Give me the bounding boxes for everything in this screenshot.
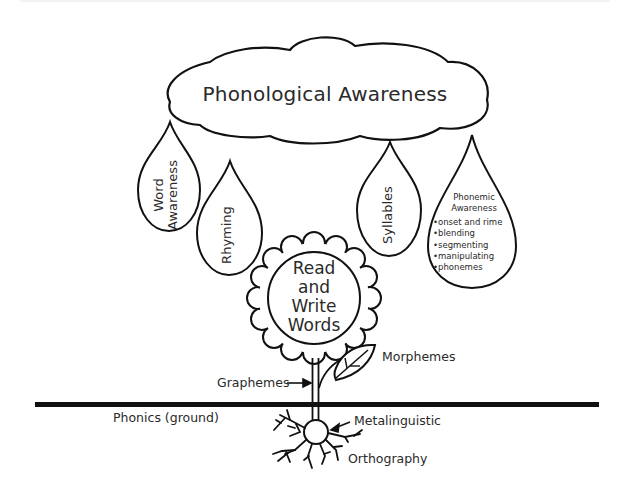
root-ball (304, 420, 328, 444)
list-item: manipulating (433, 251, 517, 262)
flower-line-1: Read (270, 259, 358, 278)
flower-label: Read and Write Words (270, 259, 358, 335)
phonemic-title-line-2: Awareness (431, 203, 517, 214)
phonemic-awareness-title: Phonemic Awareness (431, 192, 517, 213)
drop-label-rhyming: Rhyming (220, 205, 238, 265)
list-item: blending (433, 228, 517, 239)
drop-label-word-awareness: Word Awareness (152, 155, 186, 235)
label-morphemes: Morphemes (382, 349, 456, 364)
label-orthography: Orthography (348, 451, 427, 466)
drop-label-syllables: Syllables (381, 183, 399, 247)
flower-line-2: and (270, 278, 358, 297)
list-item: segmenting (433, 240, 517, 251)
word-awareness-line-1: Word (152, 155, 166, 235)
cloud-title: Phonological Awareness (200, 82, 450, 106)
list-item: onset and rime (433, 217, 517, 228)
flower-line-4: Words (270, 316, 358, 335)
drop-label-phonemic-awareness: Phonemic Awareness onset and rime blendi… (431, 192, 517, 273)
label-graphemes: Graphemes (217, 375, 289, 390)
label-ground: Phonics (ground) (113, 410, 219, 425)
flower-line-3: Write (270, 297, 358, 316)
phonemic-title-line-1: Phonemic (431, 192, 517, 203)
ground-line (35, 402, 599, 407)
word-awareness-line-2: Awareness (166, 155, 180, 235)
phonemic-awareness-list: onset and rime blending segmenting manip… (431, 217, 517, 273)
label-metalinguistic: Metalinguistic (354, 413, 441, 428)
list-item: phonemes (433, 262, 517, 273)
diagram-canvas (0, 0, 627, 500)
